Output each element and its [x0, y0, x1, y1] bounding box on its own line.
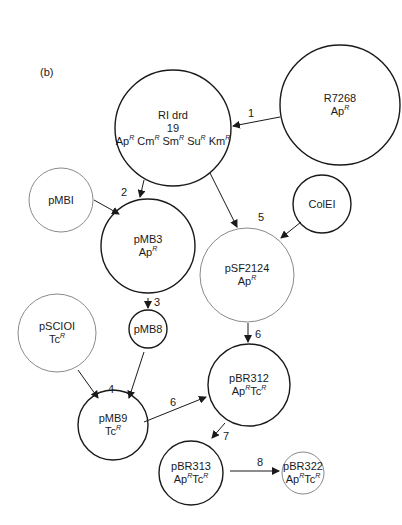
resistance-marker: TcR: [105, 425, 121, 437]
step-number-label: 7: [223, 430, 229, 442]
plasmid-label-ColEI: ColEI: [309, 198, 336, 211]
step-number-label: 8: [257, 456, 263, 468]
plasmid-label-pSF2124: pSF2124ApR: [225, 262, 270, 288]
step-number-label: 5: [258, 211, 264, 223]
resistance-marker: TcR: [192, 473, 208, 485]
resistance-marker: ApR: [116, 135, 135, 147]
plasmid-name: pMB3: [134, 233, 163, 246]
resistance-marker: SuR: [187, 135, 206, 147]
resistance-marker: KmR: [209, 135, 231, 147]
resistance-markers: ApR: [225, 275, 270, 288]
edge-arrow-pMB8-to-pMB9: [129, 352, 144, 398]
plasmid-label-pMB3: pMB3ApR: [134, 233, 163, 259]
plasmid-label-pBR312: pBR312ApRTcR: [229, 372, 269, 398]
step-number-label: 4: [108, 383, 114, 395]
resistance-marker: TcR: [49, 333, 65, 345]
plasmid-label-R1drd19: RI drd19ApR CmR SmR SuR KmR: [116, 109, 231, 148]
edge-arrow-R7268-to-R1drd19: [233, 117, 280, 126]
panel-label: (b): [40, 66, 53, 78]
step-number-label: 1: [248, 107, 254, 119]
plasmid-label-pMB8: pMB8: [134, 323, 163, 336]
plasmid-name: pSCIOI: [39, 320, 75, 333]
plasmid-name: ColEI: [309, 198, 336, 211]
edge-arrow-R1drd19-to-pMB3: [140, 180, 144, 197]
resistance-marker: ApR: [174, 473, 193, 485]
step-number-label: 3: [154, 296, 160, 308]
edge-arrow-R1drd19-to-pSF2124: [210, 173, 237, 227]
resistance-markers: ApR: [324, 105, 356, 118]
resistance-markers: ApRTcR: [171, 473, 211, 486]
resistance-markers: TcR: [39, 333, 75, 346]
plasmid-name: pMB9: [99, 412, 128, 425]
resistance-marker: CmR: [137, 135, 159, 147]
plasmid-name: pMB8: [134, 323, 163, 336]
plasmid-name: pMBI: [48, 194, 74, 207]
resistance-marker: ApR: [232, 385, 251, 397]
resistance-marker: ApR: [139, 246, 158, 258]
plasmid-label-pMB9: pMB9TcR: [99, 412, 128, 438]
plasmid-label-pSCIOI: pSCIOITcR: [39, 320, 75, 346]
resistance-markers: ApRTcR: [229, 385, 269, 398]
resistance-marker: ApR: [238, 275, 257, 287]
edge-arrow-ColEI-to-pSF2124: [281, 222, 301, 238]
resistance-marker: TcR: [304, 473, 320, 485]
resistance-markers: ApR: [134, 246, 163, 259]
plasmid-label-R7268: R7268ApR: [324, 92, 356, 118]
edge-arrow-pSCIOI-to-pMB9: [78, 370, 98, 398]
step-number-label: 2: [121, 186, 127, 198]
plasmid-name: pSF2124: [225, 262, 270, 275]
resistance-marker: ApR: [286, 473, 305, 485]
plasmid-label-pBR313: pBR313ApRTcR: [171, 460, 211, 486]
plasmid-name: RI drd: [116, 109, 231, 122]
resistance-marker: TcR: [250, 385, 266, 397]
resistance-markers: TcR: [99, 425, 128, 438]
resistance-marker: SmR: [163, 135, 185, 147]
resistance-markers: ApRTcR: [283, 473, 323, 486]
plasmid-label-pMBI: pMBI: [48, 194, 74, 207]
resistance-marker: ApR: [331, 105, 350, 117]
plasmid-name: R7268: [324, 92, 356, 105]
plasmid-label-pBR322: pBR322ApRTcR: [283, 460, 323, 486]
step-number-label: 6: [170, 396, 176, 408]
plasmid-lineage-diagram: [0, 0, 402, 525]
step-number-label: 6: [255, 328, 261, 340]
resistance-markers: ApR CmR SmR SuR KmR: [116, 135, 231, 148]
